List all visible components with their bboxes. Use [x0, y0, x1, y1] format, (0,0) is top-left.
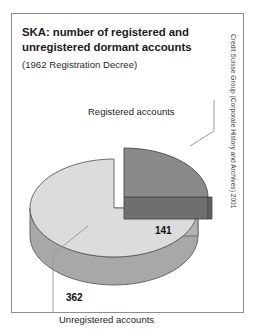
chart-frame: SKA: number of registered and unregister…	[11, 13, 244, 313]
credit-text: Credit Suisse Group (Corporate History a…	[230, 34, 237, 209]
pie-slice-registered-side	[124, 197, 208, 219]
chart-title-line-1: SKA: number of registered and	[22, 25, 218, 40]
pie-chart-graphic	[12, 86, 245, 313]
slice-value-unregistered: 362	[66, 292, 83, 303]
figure-root: SKA: number of registered and unregister…	[0, 0, 258, 333]
slice-value-registered: 141	[155, 225, 172, 236]
pie-slice-registered-top	[124, 148, 208, 197]
pie-chart-plot-area: Registered accounts Unregistered account…	[12, 86, 245, 313]
leader-line-registered	[190, 100, 214, 146]
callout-label-registered: Registered accounts	[88, 106, 175, 117]
chart-subtitle: (1962 Registration Decree)	[22, 58, 218, 71]
pie-slice-registered-edge	[208, 197, 212, 219]
credit-container: Credit Suisse Group (Corporate History a…	[231, 34, 243, 314]
callout-label-unregistered: Unregistered accounts	[59, 314, 154, 325]
chart-header: SKA: number of registered and unregister…	[22, 25, 218, 71]
chart-title-line-2: unregistered dormant accounts	[22, 40, 218, 55]
